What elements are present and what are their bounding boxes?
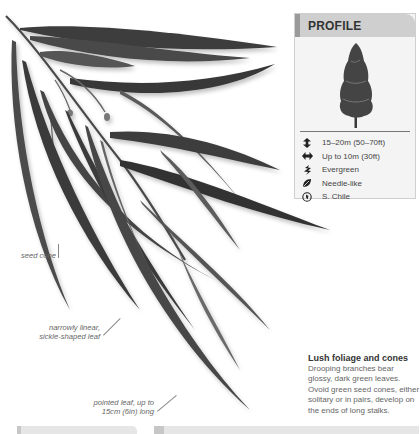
evergreen-leaf-icon [301,165,313,175]
caption-body: Drooping branches bear glossy, dark gree… [308,364,420,416]
annotation-leaf-shape: narrowly linear, sickle-shaped leaf [28,323,100,341]
leader-line [58,244,59,258]
panel-tab-accent [154,426,164,434]
annotation-leaf-size: pointed leaf, up to 15cm (6in) long [92,398,154,416]
profile-title: PROFILE [308,19,361,33]
annotation-seed-cone: seed cone [18,251,56,260]
next-panel-right [154,426,419,434]
leaf-shape-icon [301,178,313,188]
profile-facts: 15–20m (50–70ft) Up to 10m (30ft) Evergr… [301,136,411,204]
fact-foliage: Evergreen [301,163,411,176]
fact-origin: S. Chile [301,190,411,203]
globe-icon [301,192,313,202]
divider [300,131,410,132]
height-arrows-icon [301,138,313,148]
fact-spread: Up to 10m (30ft) [301,150,411,163]
fact-height: 15–20m (50–70ft) [301,136,411,149]
profile-header: PROFILE [295,14,415,37]
panel-tab-accent [17,426,21,434]
fact-leaf-shape: Needle-like [301,177,411,190]
next-panel-left [17,426,137,434]
caption-title: Lush foliage and cones [308,353,420,364]
profile-panel: PROFILE 15–20m (50–70ft) Up to 10m (30ft… [294,13,416,199]
width-arrows-icon [301,151,313,161]
caption: Lush foliage and cones Drooping branches… [308,353,420,416]
header-tab-accent [295,14,300,37]
tree-silhouette-icon [329,41,383,129]
